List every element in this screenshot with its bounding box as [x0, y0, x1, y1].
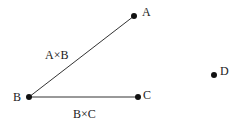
point-a — [131, 13, 137, 19]
label-b: B — [13, 90, 21, 104]
edge-label-a-b: A×B — [45, 48, 68, 62]
label-c: C — [143, 88, 151, 102]
label-a: A — [142, 5, 151, 19]
diagram-svg: A B C D A×B B×C — [0, 0, 242, 124]
label-d: D — [220, 64, 229, 78]
diagram-canvas: A B C D A×B B×C — [0, 0, 242, 124]
point-d — [211, 72, 217, 78]
point-c — [135, 94, 141, 100]
point-b — [26, 94, 32, 100]
edge-label-b-c: B×C — [73, 107, 96, 121]
